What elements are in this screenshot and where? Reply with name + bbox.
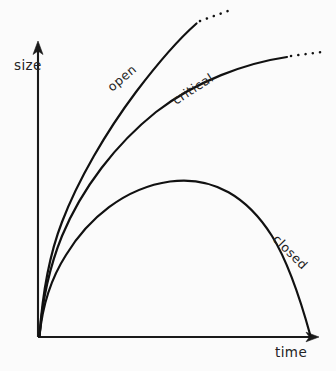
curve-closed — [40, 181, 311, 336]
x-axis-label: time — [275, 344, 307, 360]
curve-label-critical: critical — [169, 70, 216, 108]
curve-label-closed: closed — [270, 232, 311, 273]
curves-group — [40, 10, 323, 337]
curve-open-extension — [200, 10, 232, 22]
curve-label-open: open — [104, 61, 139, 94]
growth-curves-figure: size time open critical closed — [0, 0, 336, 371]
curve-critical-extension — [291, 52, 322, 56]
y-axis-label: size — [14, 57, 42, 73]
curve-critical — [40, 57, 288, 336]
diagram-canvas: size time open critical closed — [0, 0, 336, 371]
